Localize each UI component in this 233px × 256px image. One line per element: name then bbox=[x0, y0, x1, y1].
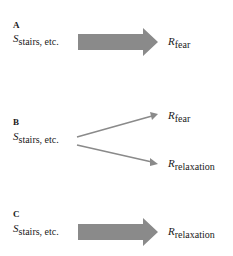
response-a-fear: Rfear bbox=[168, 36, 190, 47]
response-c-relaxation: Rrelaxation bbox=[168, 226, 215, 237]
response-b-fear: Rfear bbox=[168, 110, 190, 121]
response-symbol: R bbox=[168, 157, 175, 169]
thick-arrow-c bbox=[78, 218, 158, 246]
thick-arrow-a bbox=[78, 28, 158, 56]
response-symbol: R bbox=[168, 109, 175, 121]
stimulus-a: Sstairs, etc. bbox=[13, 33, 59, 44]
panel-label-a: A bbox=[13, 20, 20, 30]
stimulus-c: Sstairs, etc. bbox=[13, 223, 59, 234]
response-symbol: R bbox=[168, 35, 175, 47]
response-b-relaxation: Rrelaxation bbox=[168, 158, 215, 169]
panel-label-c: C bbox=[13, 209, 20, 219]
response-subscript: relaxation bbox=[175, 161, 215, 172]
response-subscript: fear bbox=[175, 39, 191, 50]
stimulus-b: Sstairs, etc. bbox=[13, 131, 59, 142]
response-subscript: fear bbox=[175, 113, 191, 124]
thin-arrows-b bbox=[77, 112, 158, 166]
response-subscript: relaxation bbox=[175, 229, 215, 240]
stimulus-subscript: stairs, etc. bbox=[19, 134, 59, 145]
stimulus-symbol: S bbox=[13, 32, 19, 44]
stimulus-symbol: S bbox=[13, 222, 19, 234]
response-symbol: R bbox=[168, 225, 175, 237]
stimulus-subscript: stairs, etc. bbox=[19, 36, 59, 47]
stimulus-symbol: S bbox=[13, 130, 19, 142]
panel-label-b: B bbox=[13, 117, 19, 127]
stimulus-subscript: stairs, etc. bbox=[19, 226, 59, 237]
